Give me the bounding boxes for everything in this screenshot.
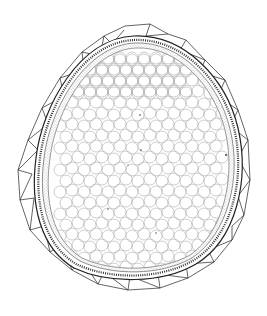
cross-section-illustration [0, 0, 267, 316]
cross-section-svg [0, 0, 267, 316]
